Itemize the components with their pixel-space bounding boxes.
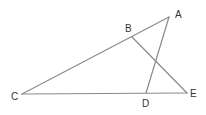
- segment-BE: [132, 37, 187, 93]
- point-label-c: C: [11, 91, 18, 102]
- point-label-b: B: [125, 23, 132, 34]
- point-label-a: A: [175, 9, 182, 20]
- point-label-d: D: [142, 98, 149, 109]
- segment-CA: [22, 17, 169, 94]
- geometry-diagram: A B C D E: [0, 0, 206, 115]
- segment-CE: [22, 93, 187, 94]
- point-label-e: E: [190, 88, 197, 99]
